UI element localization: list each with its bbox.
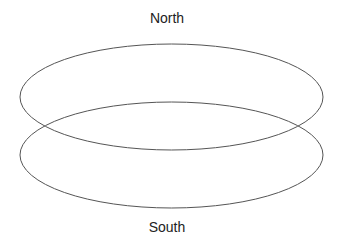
upper-ring xyxy=(20,44,323,150)
ring-diagram xyxy=(0,0,340,246)
lower-ring xyxy=(20,102,323,208)
south-label: South xyxy=(0,219,337,235)
